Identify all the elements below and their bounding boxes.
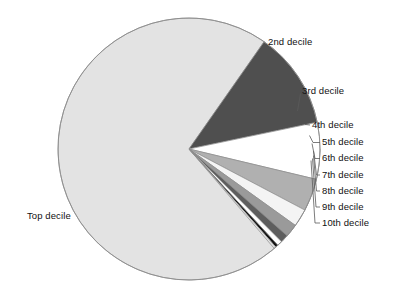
slice-label-6th-decile: 6th decile: [322, 152, 364, 163]
slice-label-8th-decile: 8th decile: [322, 185, 364, 196]
slice-label-5th-decile: 5th decile: [322, 136, 364, 147]
slice-label-10th-decile: 10th decile: [322, 217, 369, 228]
slice-label-top-decile: Top decile: [27, 210, 71, 221]
slice-label-9th-decile: 9th decile: [322, 201, 364, 212]
slice-label-4th-decile: 4th decile: [312, 119, 354, 130]
pie-chart-figure: Top decile 2nd decile 3rd decile 4th dec…: [0, 0, 401, 293]
slice-label-2nd-decile: 2nd decile: [268, 36, 312, 47]
pie-slices-group: [58, 18, 320, 280]
slice-label-7th-decile: 7th decile: [322, 169, 364, 180]
leader-line-4th-decile: [305, 125, 310, 126]
slice-label-3rd-decile: 3rd decile: [302, 85, 344, 96]
